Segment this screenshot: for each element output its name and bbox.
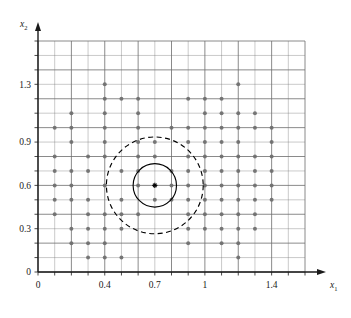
data-point: [220, 183, 224, 187]
data-point: [103, 111, 107, 115]
data-point: [236, 82, 240, 86]
data-point: [69, 169, 73, 173]
data-point: [153, 140, 157, 144]
data-point: [53, 169, 57, 173]
y-tick-label: 1.3: [19, 80, 31, 90]
data-point: [119, 227, 123, 231]
data-point: [119, 198, 123, 202]
data-point: [270, 198, 274, 202]
data-point: [53, 183, 57, 187]
plot-canvas: 00.40.711.400.30.60.91.3 x2 x1: [0, 0, 351, 318]
x-tick-label: 1: [203, 280, 208, 290]
data-point: [203, 97, 207, 101]
x-tick-label: 0: [36, 280, 41, 290]
data-point: [270, 169, 274, 173]
data-point: [203, 198, 207, 202]
data-point: [119, 212, 123, 216]
data-point: [186, 140, 190, 144]
data-point: [103, 155, 107, 159]
y-tick-label: 0.9: [19, 137, 31, 147]
data-point: [236, 169, 240, 173]
data-point: [253, 155, 257, 159]
data-point: [186, 212, 190, 216]
data-point: [236, 198, 240, 202]
data-point: [136, 97, 140, 101]
data-point: [203, 169, 207, 173]
data-point: [220, 241, 224, 245]
data-point: [220, 169, 224, 173]
data-point: [220, 212, 224, 216]
y-tick-label: 0: [26, 267, 31, 277]
data-point: [69, 111, 73, 115]
data-point: [186, 126, 190, 130]
data-point: [253, 126, 257, 130]
data-point: [203, 155, 207, 159]
data-point: [136, 183, 140, 187]
data-point: [136, 111, 140, 115]
data-point: [103, 241, 107, 245]
data-point: [103, 212, 107, 216]
data-point: [53, 126, 57, 130]
data-point: [86, 227, 90, 231]
data-point: [236, 212, 240, 216]
data-point: [203, 212, 207, 216]
data-point: [220, 155, 224, 159]
data-point: [253, 227, 257, 231]
data-point: [69, 227, 73, 231]
y-tick-label: 0.6: [19, 181, 31, 191]
data-point: [170, 183, 174, 187]
data-point: [220, 111, 224, 115]
data-point: [253, 198, 257, 202]
data-point: [53, 212, 57, 216]
data-point: [53, 155, 57, 159]
data-point: [253, 212, 257, 216]
data-point: [220, 126, 224, 130]
data-point: [69, 183, 73, 187]
data-point: [203, 111, 207, 115]
data-point: [236, 183, 240, 187]
data-point: [186, 155, 190, 159]
data-point: [69, 126, 73, 130]
data-point: [270, 155, 274, 159]
data-point: [186, 227, 190, 231]
data-point: [119, 169, 123, 173]
data-point: [136, 212, 140, 216]
data-point: [186, 97, 190, 101]
data-point: [103, 256, 107, 260]
data-point: [119, 256, 123, 260]
data-point: [220, 227, 224, 231]
data-point: [53, 198, 57, 202]
x-tick-label: 0.7: [149, 280, 161, 290]
data-point: [203, 140, 207, 144]
figure-background: [0, 0, 351, 318]
data-point: [69, 241, 73, 245]
data-point: [119, 97, 123, 101]
data-point: [136, 140, 140, 144]
data-point: [170, 126, 174, 130]
data-point: [220, 97, 224, 101]
data-point: [236, 111, 240, 115]
data-point: [86, 169, 90, 173]
data-point: [203, 227, 207, 231]
data-point: [270, 126, 274, 130]
data-point: [69, 198, 73, 202]
data-point: [236, 241, 240, 245]
data-point: [186, 198, 190, 202]
data-point: [86, 256, 90, 260]
data-point: [136, 155, 140, 159]
x-tick-label: 1.4: [266, 280, 278, 290]
data-point: [103, 82, 107, 86]
data-point: [186, 183, 190, 187]
data-point: [236, 140, 240, 144]
data-point: [103, 97, 107, 101]
data-point: [103, 126, 107, 130]
data-point: [236, 155, 240, 159]
data-point: [253, 183, 257, 187]
data-point: [136, 126, 140, 130]
data-point: [253, 169, 257, 173]
data-point: [270, 140, 274, 144]
data-point: [253, 111, 257, 115]
data-point: [220, 140, 224, 144]
data-point: [236, 126, 240, 130]
data-point: [86, 241, 90, 245]
